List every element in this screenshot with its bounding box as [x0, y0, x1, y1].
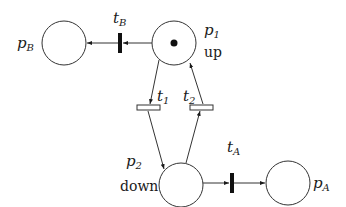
transition-t1 [137, 105, 160, 110]
place-pA [266, 161, 310, 205]
diagram-svg: tB pB p1 up t1 t2 p2 down tA pA [0, 0, 346, 207]
label-tB: tB [113, 9, 126, 28]
label-pB: pB [17, 34, 34, 53]
label-t1: t1 [157, 87, 169, 106]
label-p2: p2 [126, 152, 142, 171]
label-p1: p1 [204, 21, 220, 40]
place-p1 [152, 21, 196, 65]
label-t2: t2 [183, 87, 195, 106]
arc-p2-t2 [186, 111, 200, 163]
label-tA: tA [227, 138, 240, 157]
label-pA: pA [313, 174, 330, 193]
transition-tA [230, 173, 234, 193]
place-p2 [159, 163, 203, 207]
place-pB [42, 21, 86, 65]
transition-tB [118, 33, 122, 53]
arc-t1-p2 [148, 111, 164, 169]
token-dot [171, 40, 178, 47]
caption-p2: down [120, 178, 158, 194]
caption-p1: up [204, 44, 222, 60]
petri-net-diagram: tB pB p1 up t1 t2 p2 down tA pA [0, 0, 346, 207]
